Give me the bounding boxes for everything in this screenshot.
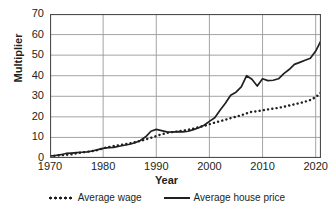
y-tick-label-10: 10 [18, 131, 44, 142]
plot-area [50, 14, 321, 158]
chart-container: Multiplier 010203040506070 1970198019902… [0, 0, 333, 215]
x-tick-label-2000: 2000 [197, 160, 221, 172]
legend: Average wage Average house price [0, 192, 333, 203]
gridlines [50, 14, 321, 158]
x-tick-label-1990: 1990 [144, 160, 168, 172]
y-tick-label-50: 50 [18, 49, 44, 60]
x-tick-label-2010: 2010 [250, 160, 274, 172]
legend-label-average-house-price: Average house price [194, 192, 286, 203]
plot-border [51, 15, 321, 158]
y-tick-label-70: 70 [18, 8, 44, 19]
x-axis-title: Year [0, 174, 333, 186]
series-layer [50, 41, 321, 156]
y-tick-label-20: 20 [18, 111, 44, 122]
legend-item-average-house-price: Average house price [164, 192, 286, 203]
dotted-line-marker-icon [48, 196, 74, 200]
legend-label-average-wage: Average wage [78, 192, 142, 203]
y-tick-label-60: 60 [18, 29, 44, 40]
plot-svg [50, 14, 321, 158]
y-tick-label-30: 30 [18, 90, 44, 101]
series-line-average-wage [50, 93, 321, 156]
y-tick-label-40: 40 [18, 70, 44, 81]
legend-item-average-wage: Average wage [48, 192, 142, 203]
solid-line-marker-icon [164, 197, 190, 199]
x-tick-label-1980: 1980 [91, 160, 115, 172]
series-line-average-house-price [50, 41, 321, 156]
x-tick-label-1970: 1970 [38, 160, 62, 172]
x-tick-label-2020: 2020 [303, 160, 327, 172]
